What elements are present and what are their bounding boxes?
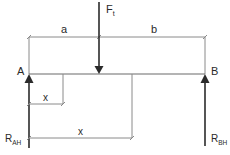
support-label-a: A [17, 65, 25, 77]
dimension-label-b: b [151, 23, 157, 35]
dimension-line-ab [27, 35, 207, 39]
dimension-label-x-long: x [78, 126, 83, 137]
load-arrow-ft [95, 2, 104, 74]
beam-diagram: a b Ft A B x x RAH RBH [0, 0, 230, 155]
dimension-label-x-short: x [43, 92, 48, 103]
reaction-arrow-a [25, 74, 34, 148]
load-label-ft: Ft [106, 3, 115, 17]
reaction-label-rah-sub: AH [12, 139, 21, 146]
load-label-sub: t [113, 10, 115, 17]
reaction-label-rah-main: R [5, 133, 12, 144]
reaction-label-rbh-main: R [211, 133, 218, 144]
reaction-label-rah: RAH [5, 133, 22, 146]
reaction-label-rbh: RBH [211, 133, 228, 146]
reaction-label-rbh-sub: BH [218, 139, 227, 146]
support-label-b: B [211, 65, 218, 77]
dimension-label-a: a [61, 23, 68, 35]
reaction-arrow-b [201, 74, 210, 146]
